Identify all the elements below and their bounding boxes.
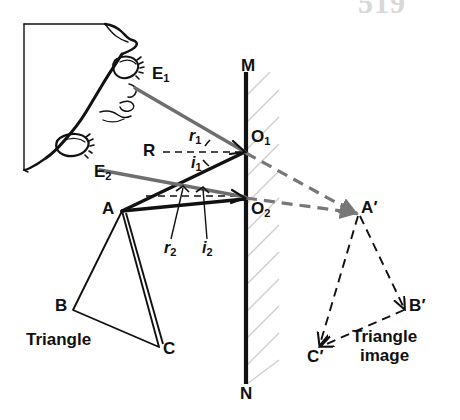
label-point-a-prime: A′ — [361, 199, 378, 217]
label-angle-i1: i1 — [191, 155, 202, 172]
label-point-c: C — [163, 340, 175, 358]
label-normal-r: R — [143, 142, 155, 160]
label-point-o1: O1 — [251, 128, 270, 146]
caption-image-triangle-line2: image — [352, 346, 417, 365]
label-point-o2-base: O — [251, 199, 264, 218]
optics-reflection-figure: 519 M N E1 E2 O1 O2 R r1 i1 r2 i2 A B C … — [0, 0, 460, 420]
label-eye-ray-2-base: E — [94, 162, 105, 181]
label-angle-i2-sub: 2 — [206, 246, 212, 258]
label-mirror-bottom: N — [240, 385, 252, 403]
label-eye-ray-1: E1 — [152, 65, 169, 83]
page-number: 519 — [358, 0, 406, 20]
label-eye-ray-1-sub: 1 — [163, 72, 169, 84]
label-point-o1-sub: 1 — [264, 135, 270, 147]
label-point-c-prime: C′ — [307, 348, 324, 366]
object-triangle — [73, 211, 163, 347]
label-point-o2-sub: 2 — [264, 207, 270, 219]
label-mirror-top: M — [241, 57, 255, 75]
label-angle-i1-sub: 1 — [195, 161, 201, 173]
reflected-ray-o2-to-eye2 — [100, 170, 245, 197]
label-angle-i2: i2 — [202, 240, 213, 257]
caption-image-triangle-line1: Triangle — [352, 327, 417, 346]
label-point-a: A — [102, 200, 114, 218]
caption-image-triangle: Triangle image — [352, 327, 417, 365]
label-eye-ray-2: E2 — [94, 163, 111, 181]
observer-face-drawing — [24, 24, 144, 172]
angle-arcs-o1 — [203, 140, 210, 166]
mirror-hatching — [247, 72, 279, 384]
label-point-b-prime: B′ — [409, 297, 426, 315]
label-point-b: B — [55, 297, 67, 315]
caption-object-triangle: Triangle — [26, 331, 91, 349]
label-eye-ray-1-base: E — [152, 64, 163, 83]
label-point-o1-base: O — [251, 127, 264, 146]
label-angle-r2-sub: 2 — [170, 246, 176, 258]
label-angle-r2: r2 — [164, 240, 176, 257]
label-point-o2: O2 — [251, 200, 270, 218]
label-eye-ray-2-sub: 2 — [105, 170, 111, 182]
label-angle-r1: r1 — [189, 128, 201, 145]
label-angle-r1-sub: 1 — [195, 134, 201, 146]
